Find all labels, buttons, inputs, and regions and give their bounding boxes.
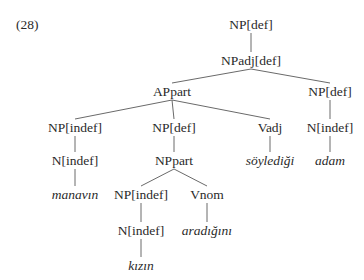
tree-node-label: N[indef] xyxy=(118,223,164,238)
tree-node-label: NP[indef] xyxy=(48,120,102,135)
tree-edge xyxy=(172,100,270,119)
tree-node-label: N[indef] xyxy=(52,153,98,168)
tree-edge xyxy=(174,169,207,186)
tree-node-label: APpart xyxy=(153,84,191,99)
tree-node-label: N[indef] xyxy=(307,120,353,135)
tree-node-label: NP[def] xyxy=(152,120,196,135)
tree-edge xyxy=(141,169,174,186)
tree-node-label: Vnom xyxy=(190,187,224,202)
tree-leaf-word: adam xyxy=(315,153,345,168)
tree-leaf-word: aradığını xyxy=(182,223,232,238)
syntax-tree-diagram: (28) NP[def]NPadj[def]APpartNP[def]NP[in… xyxy=(0,0,364,280)
example-number: (28) xyxy=(16,17,39,32)
tree-node-label: NPadj[def] xyxy=(221,53,281,68)
tree-node-label: NP[def] xyxy=(308,84,352,99)
tree-edge xyxy=(172,69,251,83)
tree-node-label: NP[indef] xyxy=(114,187,168,202)
tree-edge xyxy=(172,100,174,119)
tree-edge xyxy=(251,69,330,83)
tree-leaf-word: kızın xyxy=(128,258,154,273)
tree-node-label: Vadj xyxy=(258,120,283,135)
tree-edge xyxy=(75,100,172,119)
tree-nodes: NP[def]NPadj[def]APpartNP[def]NP[indef]N… xyxy=(48,17,353,273)
tree-leaf-word: söylediği xyxy=(246,153,295,168)
tree-node-label: NP[def] xyxy=(229,17,273,32)
tree-leaf-word: manavın xyxy=(52,187,99,202)
tree-node-label: NPpart xyxy=(155,153,193,168)
